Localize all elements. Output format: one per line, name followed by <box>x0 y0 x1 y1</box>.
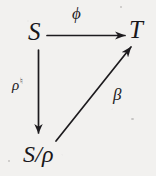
arrow-label-phi: ϕ <box>72 5 81 22</box>
natural-sign-icon: ♮ <box>20 76 23 86</box>
commutative-diagram: S T S/ρ ϕ ρ♮ β <box>0 0 156 176</box>
node-s: S <box>28 19 41 44</box>
arrow-label-beta: β <box>113 86 121 103</box>
arrow-label-rho-natural: ρ♮ <box>12 77 23 93</box>
node-s-mod-rho: S/ρ <box>23 142 54 166</box>
arrow-label-rho-base: ρ <box>12 77 19 93</box>
node-t: T <box>129 17 143 42</box>
